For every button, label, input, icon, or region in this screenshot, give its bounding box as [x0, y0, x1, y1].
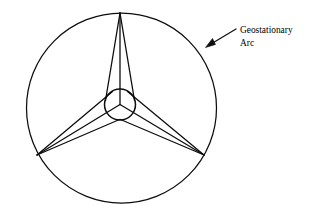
geostationary-arc-label-line1: Geostationary [240, 25, 293, 35]
diagram-root: Geostationary Arc [0, 0, 324, 217]
annotation-arrow-shaft [211, 29, 236, 44]
geostationary-arc-label-line2: Arc [240, 38, 254, 48]
coverage-line-top-right [120, 13, 135, 101]
coverage-line-lowerright-upper [128, 92, 205, 156]
annotation-arrow-head [206, 39, 216, 48]
coverage-line-lowerleft-lower [37, 120, 120, 156]
coverage-line-lowerright-lower [121, 120, 205, 156]
radial-line-lowerleft-to-earth-center [37, 105, 120, 156]
geostationary-arc-circle [27, 13, 217, 203]
radial-line-lowerright-to-earth-center [120, 105, 204, 156]
coverage-line-top-left [106, 13, 121, 101]
geostationary-arc-diagram: Geostationary Arc [0, 0, 324, 217]
coverage-line-lowerleft-upper [37, 92, 113, 156]
